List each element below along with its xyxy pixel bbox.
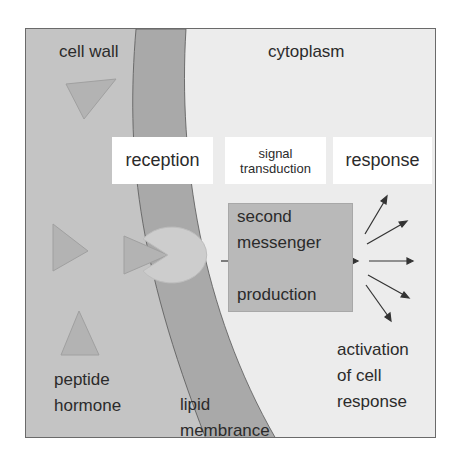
peptide-hormone-line2: hormone	[54, 393, 121, 419]
cytoplasm-label: cytoplasm	[268, 41, 345, 62]
stage-response-label: response	[345, 150, 419, 171]
activation-line3: response	[337, 389, 409, 415]
lipid-membrane-line1: lipid	[180, 392, 270, 418]
lipid-membrane-label: lipid membrance	[180, 392, 270, 438]
stage-response: response	[333, 137, 432, 184]
messenger-line3: production	[237, 285, 316, 305]
activation-line1: activation	[337, 337, 409, 363]
peptide-hormone-label: peptide hormone	[54, 367, 121, 419]
stage-signal-transduction: signal transduction	[225, 137, 326, 184]
activation-label: activation of cell response	[337, 337, 409, 415]
activation-line2: of cell	[337, 363, 409, 389]
cell-wall-label: cell wall	[59, 41, 119, 62]
second-messenger-box: second messenger production	[228, 203, 353, 312]
stage-signal-line1: signal	[259, 146, 293, 161]
peptide-hormone-line1: peptide	[54, 367, 121, 393]
stage-reception: reception	[112, 137, 213, 184]
diagram-frame: cell wall cytoplasm reception signal tra…	[25, 28, 436, 438]
stage-signal-line2: transduction	[240, 161, 311, 176]
messenger-line2: messenger	[237, 233, 321, 253]
stage-reception-label: reception	[125, 150, 199, 171]
messenger-line1: second	[237, 207, 292, 227]
lipid-membrane-line2: membrance	[180, 418, 270, 438]
response-arrows	[365, 196, 413, 321]
